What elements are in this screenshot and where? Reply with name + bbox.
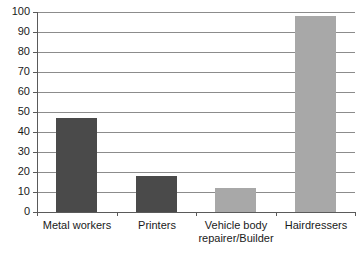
x-tick <box>355 212 356 216</box>
bar-chart: 0102030405060708090100 Metal workersPrin… <box>0 0 363 256</box>
x-axis-category-label: Vehicle body repairer/Builder <box>196 219 276 244</box>
y-axis-tick-label: 10 <box>0 186 30 197</box>
y-axis-tick-label: 50 <box>0 106 30 117</box>
y-axis-tick-label: 80 <box>0 46 30 57</box>
bar <box>136 176 177 212</box>
x-axis-category-label: Hairdressers <box>276 219 356 232</box>
bar <box>295 16 336 212</box>
y-axis-tick-label: 20 <box>0 166 30 177</box>
y-axis-tick-label: 70 <box>0 66 30 77</box>
x-tick <box>196 212 197 216</box>
y-axis-tick-label: 40 <box>0 126 30 137</box>
y-axis-tick-label: 30 <box>0 146 30 157</box>
bar <box>56 118 97 212</box>
y-axis-tick-label: 90 <box>0 26 30 37</box>
x-tick-origin <box>37 212 38 216</box>
x-tick <box>276 212 277 216</box>
y-axis-tick-label: 100 <box>0 6 30 17</box>
x-axis-category-label: Printers <box>117 219 197 232</box>
y-axis-tick-label: 60 <box>0 86 30 97</box>
y-axis-tick-label: 0 <box>0 206 30 217</box>
x-axis-category-label: Metal workers <box>37 219 117 232</box>
x-tick <box>117 212 118 216</box>
bar <box>215 188 256 212</box>
bars-layer <box>37 12 355 212</box>
